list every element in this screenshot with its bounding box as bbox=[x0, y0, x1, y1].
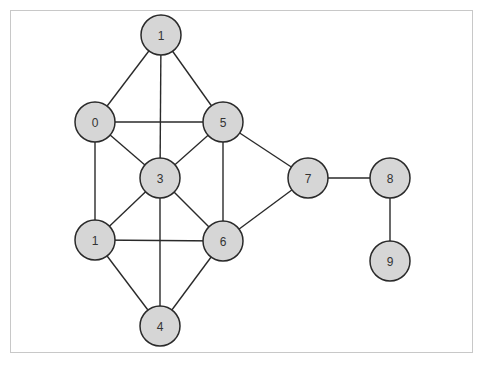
node-label: 0 bbox=[92, 116, 99, 130]
graph-node-n3: 3 bbox=[140, 158, 180, 198]
node-label: 9 bbox=[387, 255, 394, 269]
graph-node-n9: 9 bbox=[370, 241, 410, 281]
node-label: 6 bbox=[220, 235, 227, 249]
edges-layer bbox=[95, 35, 390, 326]
graph-node-n4: 4 bbox=[140, 306, 180, 346]
graph-node-n5: 5 bbox=[203, 102, 243, 142]
node-label: 3 bbox=[157, 172, 164, 186]
graph-node-n_top1: 1 bbox=[141, 15, 181, 55]
node-label: 1 bbox=[92, 234, 99, 248]
node-label: 8 bbox=[387, 172, 394, 186]
graph-canvas: 1053164789 bbox=[0, 0, 481, 365]
nodes-layer: 1053164789 bbox=[75, 15, 410, 346]
graph-node-n8: 8 bbox=[370, 158, 410, 198]
graph-node-n6: 6 bbox=[203, 221, 243, 261]
graph-node-n_low1: 1 bbox=[75, 220, 115, 260]
node-label: 1 bbox=[158, 29, 165, 43]
graph-node-n0: 0 bbox=[75, 102, 115, 142]
node-label: 7 bbox=[305, 172, 312, 186]
node-label: 5 bbox=[220, 116, 227, 130]
node-label: 4 bbox=[157, 320, 164, 334]
edge-n_top1-n3 bbox=[160, 35, 161, 178]
graph-node-n7: 7 bbox=[288, 158, 328, 198]
